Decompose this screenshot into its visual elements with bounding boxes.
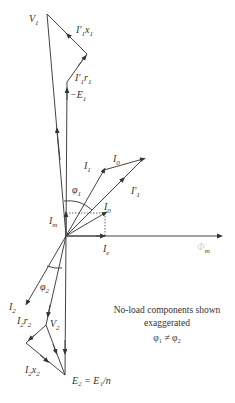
x2-arrow-icon — [40, 355, 47, 361]
e2-phasor — [65, 236, 66, 375]
phasor-diagram: V1 I′1x1 I′1r1 −E1 I1 I0 I′1 φ1 I0 Im Ie… — [0, 0, 235, 403]
phi1-arc — [64, 201, 92, 210]
label-i2-x2: I2x2 — [24, 364, 40, 378]
v1-arrow-icon — [57, 130, 60, 160]
label-e2: E₂ = E₁/n — [71, 375, 111, 386]
v1-phasor — [47, 14, 66, 236]
label-i0-top: I0 — [112, 153, 120, 167]
r1-arrow-icon — [78, 57, 85, 66]
label-neg-e1: −E1 — [70, 89, 86, 103]
label-v2: V2 — [50, 318, 60, 332]
phi2-arc — [47, 266, 62, 268]
secondary-polygon — [26, 236, 66, 375]
label-phim: Φm — [197, 241, 210, 255]
x1-arrow-icon — [68, 35, 72, 39]
label-phi1: φ1 — [72, 184, 81, 198]
label-i1: I1 — [83, 160, 91, 174]
v2-e2-arrow-icon — [53, 344, 56, 352]
label-i2: I2 — [8, 301, 16, 315]
label-i2-r2: I2r2 — [16, 315, 32, 329]
note-line-3: φ₁ ≠ φ₂ — [153, 333, 181, 343]
label-v1: V1 — [29, 13, 39, 27]
label-phi2: φ2 — [40, 281, 50, 295]
label-ie: Ie — [102, 243, 109, 257]
r2-arrow-icon — [30, 334, 36, 339]
label-i1-r1: I′1r1 — [74, 72, 91, 86]
i-prime1-arrow-icon — [115, 179, 123, 187]
note-line-2: exaggerated — [144, 318, 190, 328]
label-i1-x1: I′1x1 — [75, 24, 93, 38]
label-i-prime1: I′1 — [130, 185, 140, 199]
note-line-1: No-load components shown — [114, 305, 221, 315]
label-im: Im — [48, 215, 57, 229]
